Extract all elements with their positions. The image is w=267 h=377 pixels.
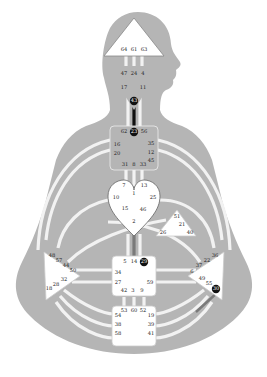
gate-57: 57 — [56, 257, 63, 263]
gate-13: 13 — [141, 182, 148, 188]
gate-49: 49 — [199, 275, 206, 281]
gate-33: 33 — [140, 161, 147, 167]
gate-24: 24 — [131, 70, 138, 76]
gate-45: 45 — [148, 157, 155, 163]
gate-60: 60 — [131, 307, 138, 313]
gate-37: 37 — [196, 262, 203, 268]
root-center[interactable]: 53 60 52 54 19 38 39 58 41 — [112, 306, 156, 346]
gate-1: 1 — [132, 190, 135, 196]
gate-15: 15 — [122, 205, 129, 211]
gate-19: 19 — [148, 312, 155, 318]
gate-3: 3 — [131, 287, 134, 293]
sacral-center[interactable]: 5 14 29 34 27 59 42 3 9 — [112, 256, 156, 296]
gate-50: 50 — [70, 267, 77, 273]
gate-39: 39 — [148, 321, 155, 327]
gate-51: 51 — [174, 213, 181, 219]
gate-7: 7 — [122, 182, 125, 188]
gate-26: 26 — [160, 229, 167, 235]
gate-28: 28 — [53, 281, 60, 287]
gate-12: 12 — [148, 149, 155, 155]
bodygraph: 64 61 63 47 24 4 17 11 43 62 23 56 16 35… — [0, 0, 267, 377]
gate-34: 34 — [115, 269, 122, 275]
gate-30: 30 — [213, 285, 220, 291]
gate-32: 32 — [61, 276, 68, 282]
gate-8: 8 — [132, 161, 135, 167]
gate-14: 14 — [131, 258, 138, 264]
gate-9: 9 — [140, 287, 143, 293]
gate-54: 54 — [115, 312, 122, 318]
gate-11: 11 — [140, 84, 147, 90]
gate-63: 63 — [141, 46, 148, 52]
gate-27: 27 — [115, 279, 122, 285]
gate-41: 41 — [148, 330, 155, 336]
gate-31: 31 — [122, 161, 129, 167]
gate-18: 18 — [46, 285, 53, 291]
gate-40: 40 — [187, 229, 194, 235]
gate-36: 36 — [212, 252, 219, 258]
gate-56: 56 — [141, 128, 148, 134]
gate-58: 58 — [115, 330, 122, 336]
gate-61: 61 — [131, 46, 138, 52]
gate-43: 43 — [131, 97, 138, 103]
gate-64: 64 — [121, 46, 128, 52]
gate-38: 38 — [115, 321, 122, 327]
gate-5: 5 — [123, 258, 126, 264]
gate-10: 10 — [113, 194, 120, 200]
gate-21: 21 — [179, 221, 186, 227]
gate-20: 20 — [114, 150, 121, 156]
gate-22: 22 — [204, 257, 211, 263]
gate-59: 59 — [147, 279, 154, 285]
gate-47: 47 — [121, 70, 128, 76]
gate-29: 29 — [141, 258, 148, 264]
gate-42: 42 — [121, 287, 128, 293]
gate-2: 2 — [132, 218, 135, 224]
throat-center[interactable]: 62 23 56 16 35 20 12 45 31 8 33 — [110, 126, 158, 170]
gate-16: 16 — [114, 141, 121, 147]
gate-52: 52 — [140, 307, 147, 313]
gate-46: 46 — [140, 206, 147, 212]
gate-53: 53 — [121, 307, 128, 313]
gate-23: 23 — [131, 128, 138, 134]
gate-17: 17 — [121, 84, 128, 90]
gate-62: 62 — [121, 128, 128, 134]
gate-25: 25 — [150, 194, 157, 200]
gate-6: 6 — [190, 268, 193, 274]
gate-55: 55 — [206, 280, 213, 286]
gate-48: 48 — [49, 252, 56, 258]
gate-35: 35 — [148, 140, 155, 146]
